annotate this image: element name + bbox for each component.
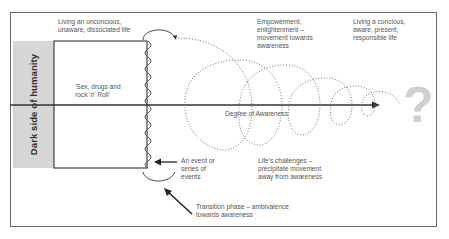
- axis-arrowhead: [372, 102, 380, 109]
- label-empowerment: Empowerment, enlightenment – movement to…: [257, 18, 313, 50]
- bottom-curve: [143, 172, 175, 181]
- label-unconscious-life: Living an unconcious, unaware, dissociat…: [58, 18, 130, 34]
- label-challenges: Life's challenges – precipitate movement…: [258, 157, 322, 181]
- top-curve-arrow: [143, 30, 175, 40]
- question-mark-icon: ?: [403, 80, 434, 130]
- label-transition: Transition phase – ambivalence towards a…: [196, 203, 289, 219]
- awareness-spiral: [178, 38, 400, 150]
- label-conscious-life: Living a concious, aware, present, respo…: [353, 18, 405, 42]
- axis-label: Degree of Awareness: [225, 110, 288, 118]
- label-event: An event or series of events: [181, 157, 215, 181]
- label-sex-drugs: 'Sex, drugs and rock 'n' Roll': [75, 83, 121, 99]
- transition-arrow: [168, 192, 192, 214]
